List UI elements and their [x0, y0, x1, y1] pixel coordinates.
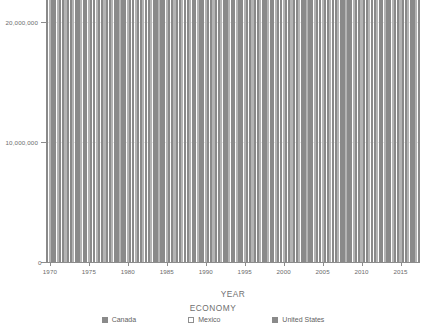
x-tick-mark — [362, 262, 363, 266]
x-tick-label: 2010 — [354, 268, 368, 275]
legend-swatch-icon — [188, 317, 194, 323]
x-tick-label: 1980 — [121, 268, 135, 275]
bar-chart: 010,000,00020,000,000 197019751980198519… — [0, 0, 426, 335]
legend-label: Mexico — [198, 316, 220, 323]
legend-label: United States — [282, 316, 324, 323]
x-tick-label: 1990 — [199, 268, 213, 275]
x-tick-label: 1985 — [160, 268, 174, 275]
legend-swatch-icon — [102, 317, 108, 323]
legend-item-canada[interactable]: Canada — [102, 316, 137, 323]
x-tick-mark — [128, 262, 129, 266]
x-tick-label: 1970 — [43, 268, 57, 275]
legend-swatch-icon — [272, 317, 278, 323]
y-tick-label: 10,000,000 — [6, 139, 38, 146]
legend-title: ECONOMY — [0, 303, 426, 313]
x-axis-title: YEAR — [20, 289, 426, 299]
x-tick-mark — [245, 262, 246, 266]
x-tick-mark — [284, 262, 285, 266]
x-tick-label: 1995 — [238, 268, 252, 275]
x-tick-label: 1975 — [82, 268, 96, 275]
x-tick-label: 2000 — [277, 268, 291, 275]
x-tick-mark — [323, 262, 324, 266]
x-tick-mark — [50, 262, 51, 266]
y-tick-label: 20,000,000 — [6, 19, 38, 26]
bar — [418, 0, 420, 262]
legend-item-united-states[interactable]: United States — [272, 316, 324, 323]
legend-item-mexico[interactable]: Mexico — [188, 316, 220, 323]
x-tick-label: 2005 — [316, 268, 330, 275]
legend: CanadaMexicoUnited States — [0, 316, 426, 323]
x-tick-mark — [89, 262, 90, 266]
x-tick-mark — [401, 262, 402, 266]
x-tick-mark — [206, 262, 207, 266]
y-tick-label: 0 — [38, 259, 42, 266]
x-axis-line — [46, 262, 420, 263]
legend-label: Canada — [112, 316, 137, 323]
x-tick-mark — [167, 262, 168, 266]
plot-area — [46, 22, 420, 262]
x-tick-label: 2015 — [393, 268, 407, 275]
